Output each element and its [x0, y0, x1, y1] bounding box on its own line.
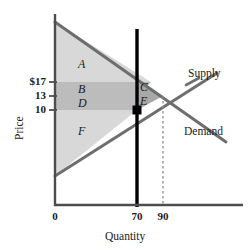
x-tick-label-70: 70 — [127, 211, 147, 222]
region-label-D: D — [78, 97, 87, 109]
supply-demand-diagram: $17 13 10 0 70 90 Price Quantity A B D F… — [0, 0, 250, 251]
x-tick-label-90: 90 — [153, 211, 173, 222]
region-label-A: A — [78, 58, 85, 70]
region-label-B: B — [78, 83, 85, 95]
region-label-E: E — [140, 95, 147, 107]
y-axis-title: Price — [14, 116, 26, 140]
supply-curve-label: Supply — [188, 68, 221, 80]
x-tick-label-0: 0 — [45, 211, 65, 222]
y-tick-label-17: $17 — [2, 76, 46, 87]
y-tick-label-13: 13 — [2, 90, 46, 101]
region-D-shape — [55, 96, 137, 110]
region-label-F: F — [78, 125, 85, 137]
y-tick-label-10: 10 — [2, 104, 46, 115]
region-label-C: C — [140, 81, 148, 93]
region-F-shape — [55, 110, 137, 176]
x-axis-title: Quantity — [105, 231, 145, 243]
demand-curve-label: Demand — [184, 126, 223, 138]
